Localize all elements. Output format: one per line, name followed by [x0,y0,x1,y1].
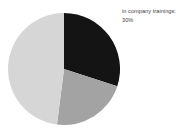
chart-legend: in company trainings: 30% [122,9,190,24]
pie-slice-segment-3[interactable] [8,13,64,125]
legend-value: 30% [122,18,190,24]
pie-chart-svg [8,13,120,125]
legend-label: in company trainings: [122,9,190,15]
chart-screenshot: in company trainings: 30% [0,0,190,133]
pie-chart [8,13,120,125]
